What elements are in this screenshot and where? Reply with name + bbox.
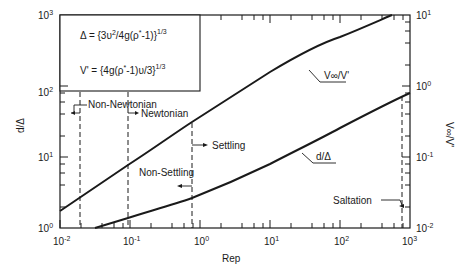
svg-text:10-2: 10-2 — [53, 235, 70, 247]
label-non-settling: Non-Settling — [139, 167, 194, 178]
label-curve-v-inf: V∞/V' — [324, 70, 349, 81]
y-right-axis-title: V∞/V' — [444, 122, 455, 147]
svg-text:10-1: 10-1 — [123, 235, 140, 247]
svg-text:10-1: 10-1 — [416, 151, 433, 163]
x-tick-labels: 10-2 10-1 100 101 102 103 — [53, 235, 417, 247]
svg-text:103: 103 — [38, 9, 53, 21]
svg-text:102: 102 — [334, 235, 349, 247]
svg-text:103: 103 — [402, 235, 417, 247]
x-axis-title: Rep — [222, 253, 241, 264]
y-left-tick-labels: 100 101 102 103 — [38, 9, 53, 234]
arrow-right-icon — [135, 111, 139, 115]
formula-delta: Δ = {3υ2/4g(ρ*-1)}1/3 — [80, 28, 167, 41]
y-right-ticks — [402, 22, 410, 207]
arrow-right-icon — [203, 143, 208, 147]
svg-text:102: 102 — [38, 86, 53, 98]
formula-vprime: V' = {4g(ρ*-1)υ/3}1/3 — [80, 63, 165, 76]
formula-box — [60, 15, 200, 91]
label-settling: Settling — [212, 140, 245, 151]
arrow-left-icon — [177, 184, 182, 188]
y-right-tick-labels: 10-2 10-1 100 101 — [416, 9, 433, 234]
label-curve-d-delta: d/Δ — [316, 151, 331, 162]
label-saltation: Saltation — [333, 195, 372, 206]
y-left-ticks — [60, 86, 68, 207]
svg-text:101: 101 — [38, 151, 53, 163]
label-newtonian: Newtonian — [141, 108, 188, 119]
svg-text:100: 100 — [38, 222, 53, 234]
saltation-leader — [381, 200, 402, 205]
arrow-left-icon — [71, 111, 75, 115]
svg-text:100: 100 — [194, 235, 209, 247]
reference-lines — [80, 92, 402, 228]
svg-text:101: 101 — [264, 235, 279, 247]
chart: Δ = {3υ2/4g(ρ*-1)}1/3 V' = {4g(ρ*-1)υ/3}… — [0, 0, 465, 277]
y-left-axis-title: d/Δ — [15, 118, 26, 133]
svg-text:101: 101 — [416, 9, 431, 21]
svg-text:100: 100 — [416, 80, 431, 92]
svg-text:10-2: 10-2 — [416, 222, 433, 234]
